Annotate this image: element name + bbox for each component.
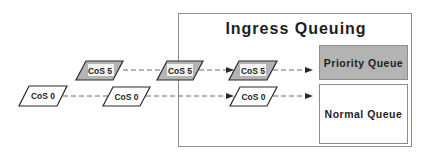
cos0-packet-3-label: CoS 0 <box>241 92 265 102</box>
cos5-packet-1-label: CoS 5 <box>88 66 112 76</box>
cos0-packet-2: CoS 0 <box>103 87 150 106</box>
ingress-queuing-title: Ingress Queuing <box>225 20 366 37</box>
normal-queue: Normal Queue <box>320 85 408 144</box>
cos0-packet-1-label: CoS 0 <box>31 91 55 101</box>
ingress-queuing-diagram: Ingress Queuing Priority Queue Normal Qu… <box>0 0 426 154</box>
cos5-packet-3-label: CoS 5 <box>241 66 265 76</box>
cos5-packet-2-label: CoS 5 <box>168 66 192 76</box>
cos0-packet-2-label: CoS 0 <box>114 92 138 102</box>
cos0-packet-1: CoS 0 <box>19 86 67 106</box>
normal-queue-label: Normal Queue <box>325 108 403 120</box>
cos5-packet-1: CoS 5 <box>76 61 123 80</box>
priority-queue-label: Priority Queue <box>324 57 403 69</box>
priority-queue: Priority Queue <box>320 46 408 80</box>
